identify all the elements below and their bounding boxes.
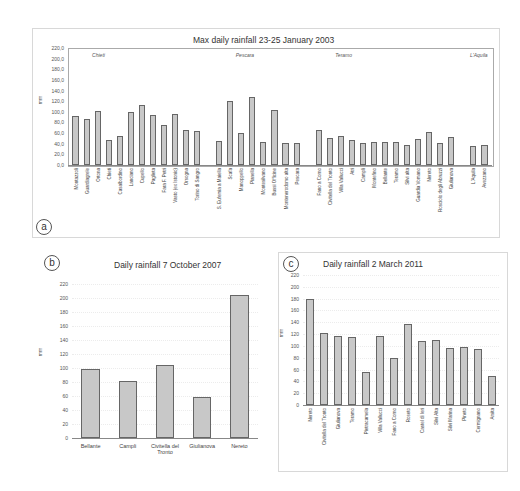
panel-b: b Daily rainfall 7 October 2007 02040608…: [32, 250, 262, 482]
x-tick-label: Arsita: [490, 408, 495, 468]
x-tick-label: Campli: [361, 168, 366, 228]
bar: [161, 125, 167, 165]
x-tick-label: Scafa: [228, 168, 233, 228]
x-tick-label: Silvi Alta: [434, 408, 439, 468]
y-tick-label: 40: [275, 378, 299, 384]
bar: [488, 376, 496, 405]
panel-c: c Daily rainfall 2 March 2011 0204060801…: [278, 252, 508, 472]
x-tick-label: Guardiagrele: [85, 168, 90, 228]
bar: [156, 365, 175, 438]
y-tick-label: 160: [275, 307, 299, 313]
bar: [81, 369, 100, 438]
chart-c-title: Daily rainfall 2 March 2011: [323, 259, 423, 269]
y-tick-label: 80,0: [40, 119, 64, 125]
x-axis-line: [68, 165, 492, 166]
x-tick-label: Vasto (ex Istonio): [173, 168, 178, 228]
y-tick-label: 180,0: [40, 66, 64, 72]
bar: [426, 132, 432, 165]
y-tick-label: 180: [44, 309, 68, 315]
y-tick-label: 180: [275, 296, 299, 302]
x-tick-label: Giulianova: [449, 168, 454, 228]
bar: [306, 299, 314, 405]
y-tick-label: 60,0: [40, 130, 64, 136]
gridline: [303, 381, 499, 382]
x-tick-label: Manoppello: [239, 168, 244, 228]
bar: [360, 143, 366, 165]
bar: [249, 97, 255, 165]
x-tick-label: Civitella del Tronto: [328, 168, 333, 228]
gridline: [303, 322, 499, 323]
bar: [349, 140, 355, 165]
bar: [362, 372, 370, 405]
y-tick-label: 120,0: [40, 98, 64, 104]
x-tick-label: Pescara: [295, 168, 300, 228]
bar: [84, 119, 90, 165]
x-tick-label: Bellante: [72, 443, 109, 449]
bar: [230, 295, 249, 438]
y-tick-label: 200: [275, 284, 299, 290]
bar: [119, 381, 138, 438]
x-tick-label: Giulianova: [184, 443, 221, 449]
x-tick-label: Castel di Ieri: [420, 408, 425, 468]
bar: [95, 111, 101, 165]
x-tick-label: Chieti: [107, 168, 112, 228]
bar: [216, 141, 222, 165]
gridline: [303, 299, 499, 300]
y-tick-label: 200,0: [40, 56, 64, 62]
bar: [238, 133, 244, 165]
bar: [470, 146, 476, 165]
y-tick-label: 100,0: [40, 109, 64, 115]
bar: [128, 112, 134, 165]
gridline: [303, 346, 499, 347]
bar: [193, 397, 212, 438]
chart-b-title: Daily rainfall 7 October 2007: [114, 260, 221, 270]
y-tick-label: 40: [44, 407, 68, 413]
x-tick-label: Fara F. Petri: [162, 168, 167, 228]
y-tick-label: 0: [44, 435, 68, 441]
x-tick-label: Montefino: [372, 168, 377, 228]
x-tick-label: Teramo: [350, 408, 355, 468]
x-tick-label: Civitella del Tronto: [322, 408, 327, 468]
bar: [437, 143, 443, 165]
x-tick-label: Giulianova: [336, 408, 341, 468]
y-tick-label: 80: [44, 379, 68, 385]
bar: [227, 101, 233, 165]
region-label: Pescara: [236, 52, 254, 58]
y-tick-label: 20: [44, 421, 68, 427]
y-tick-label: 140: [44, 337, 68, 343]
bar: [371, 142, 377, 165]
gridline: [72, 284, 258, 285]
y-tick-label: 220: [44, 281, 68, 287]
gridline: [303, 334, 499, 335]
x-tick-label: Paglieta: [151, 168, 156, 228]
bar: [117, 136, 123, 165]
y-tick-label: 220,0: [40, 45, 64, 51]
y-tick-label: 0: [275, 402, 299, 408]
bar: [320, 333, 328, 405]
bar: [415, 139, 421, 165]
gridline: [303, 393, 499, 394]
panel-a: Max daily rainfall 23-25 January 2003 0,…: [32, 28, 500, 238]
y-tick-label: 60: [44, 393, 68, 399]
gridline: [303, 287, 499, 288]
bar: [72, 116, 78, 165]
bar: [334, 336, 342, 405]
x-tick-label: Pineto: [462, 408, 467, 468]
x-tick-label: Bellante: [383, 168, 388, 228]
y-tick-label: 100: [275, 343, 299, 349]
x-tick-label: S. Eufemia a Maiella: [217, 168, 222, 228]
bar: [481, 145, 487, 165]
bar: [348, 337, 356, 405]
x-tick-label: Avezzano: [482, 168, 487, 228]
y-tick-label: 60: [275, 367, 299, 373]
panel-letter-a: a: [36, 219, 52, 235]
x-tick-label: Fano a Corno: [392, 408, 397, 468]
gridline: [303, 370, 499, 371]
y-tick-label: 100: [44, 365, 68, 371]
chart-b-plot: 020406080100120140160180200220mmBellante…: [72, 284, 258, 438]
x-axis-line: [303, 405, 499, 406]
x-tick-label: Montazzoli: [74, 168, 79, 228]
x-tick-label: L'Aquila: [471, 168, 476, 228]
bar: [376, 336, 384, 405]
bar: [271, 110, 277, 165]
